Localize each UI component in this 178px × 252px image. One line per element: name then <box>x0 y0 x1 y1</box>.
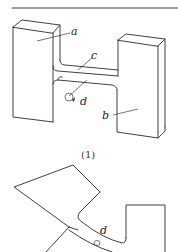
right-pillar-flat <box>126 205 165 252</box>
rotated-piece-join <box>69 227 78 230</box>
figure-canvas: a c d b (1) d <box>0 0 178 252</box>
neck-upper-back <box>60 60 118 70</box>
right-pillar-top-face <box>118 34 165 46</box>
leader-a <box>37 33 70 41</box>
twist-circle-icon-2 <box>94 241 100 246</box>
label-b: b <box>102 109 109 122</box>
rotated-piece-lower <box>46 227 69 252</box>
rotated-piece-outline <box>14 165 100 227</box>
label-c: c <box>91 49 97 62</box>
neck-upper-front <box>53 66 118 76</box>
left-pillar-top-face <box>13 20 60 33</box>
label-d: d <box>80 95 87 108</box>
left-pillar-front <box>13 27 53 122</box>
twist-circle-icon <box>65 93 73 101</box>
rotated-piece-neck-top <box>78 192 100 222</box>
label-a: a <box>71 25 78 38</box>
twisted-block: d <box>14 165 165 252</box>
neck-lower-curve <box>58 77 62 80</box>
label-d2: d <box>100 224 107 237</box>
caption-part1: (1) <box>81 149 95 160</box>
h-block: a c d b <box>13 20 165 138</box>
leader-c <box>78 58 92 70</box>
